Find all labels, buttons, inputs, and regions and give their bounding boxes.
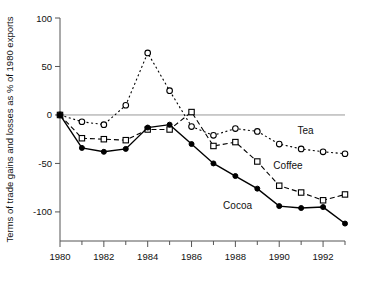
data-point-coffee-1990: [277, 183, 282, 188]
data-point-cocoa-1980: [58, 112, 63, 117]
data-point-cocoa-1981: [79, 145, 84, 150]
data-point-tea-1987: [211, 133, 217, 139]
data-point-tea-1991: [298, 146, 304, 152]
data-point-cocoa-1993: [343, 221, 348, 226]
y-tick-label--100: -100: [33, 206, 52, 217]
x-tick-label-1992: 1992: [313, 251, 334, 262]
data-point-tea-1983: [123, 102, 129, 108]
data-point-tea-1981: [79, 119, 85, 125]
data-point-cocoa-1983: [123, 146, 128, 151]
x-tick-label-1986: 1986: [181, 251, 202, 262]
y-tick-label--50: -50: [38, 158, 52, 169]
data-point-coffee-1992: [320, 198, 325, 203]
x-tick-label-1988: 1988: [225, 251, 246, 262]
data-point-coffee-1987: [211, 143, 216, 148]
data-point-coffee-1983: [123, 137, 128, 142]
y-tick-label-50: 50: [41, 61, 52, 72]
y-tick-label-0: 0: [47, 109, 52, 120]
data-point-cocoa-1987: [211, 161, 216, 166]
data-point-cocoa-1990: [277, 204, 282, 209]
chart-container: 100500-50-100198019821984198619881990199…: [0, 0, 368, 284]
data-point-tea-1993: [342, 151, 348, 157]
data-point-coffee-1989: [255, 159, 260, 164]
data-point-coffee-1988: [233, 139, 238, 144]
x-tick-label-1982: 1982: [93, 251, 114, 262]
data-point-coffee-1991: [298, 190, 303, 195]
data-point-cocoa-1992: [321, 205, 326, 210]
series-annotation-coffee: Coffee: [273, 160, 303, 171]
data-point-cocoa-1982: [101, 149, 106, 154]
x-tick-label-1980: 1980: [49, 251, 70, 262]
data-point-coffee-1993: [342, 192, 347, 197]
data-point-tea-1984: [145, 50, 151, 56]
data-point-tea-1989: [255, 129, 261, 135]
series-annotation-tea: Tea: [297, 125, 314, 136]
y-tick-label-100: 100: [36, 13, 52, 24]
data-point-cocoa-1991: [299, 206, 304, 211]
data-point-tea-1985: [167, 88, 173, 94]
x-tick-label-1990: 1990: [269, 251, 290, 262]
data-point-coffee-1986: [189, 109, 194, 114]
data-point-coffee-1981: [79, 136, 84, 141]
x-tick-label-1984: 1984: [137, 251, 158, 262]
data-point-tea-1990: [276, 141, 282, 147]
y-axis-title: Terms of trade gains and losses as % of …: [4, 16, 15, 242]
series-annotation-cocoa: Cocoa: [223, 200, 252, 211]
data-point-tea-1988: [233, 126, 239, 132]
terms-of-trade-line-chart: 100500-50-100198019821984198619881990199…: [0, 0, 368, 284]
data-point-tea-1982: [101, 122, 107, 128]
data-point-tea-1986: [189, 124, 195, 130]
data-point-cocoa-1986: [189, 142, 194, 147]
data-point-cocoa-1985: [167, 122, 172, 127]
data-point-coffee-1982: [101, 137, 106, 142]
data-point-cocoa-1989: [255, 186, 260, 191]
data-point-cocoa-1988: [233, 174, 238, 179]
data-point-tea-1992: [320, 149, 326, 155]
data-point-cocoa-1984: [145, 125, 150, 130]
